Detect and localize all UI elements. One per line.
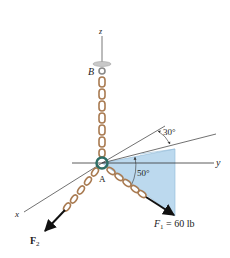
force-f2-label: F2 bbox=[30, 235, 40, 248]
support-plate bbox=[93, 62, 111, 67]
eye-bolt-b bbox=[99, 68, 105, 74]
chain-ab bbox=[99, 77, 105, 157]
x-axis bbox=[24, 163, 102, 212]
x-axis-label: x bbox=[14, 209, 19, 219]
angle-label-30: 30° bbox=[163, 127, 176, 137]
shaded-plane bbox=[102, 149, 175, 216]
angle-label-50: 50° bbox=[137, 168, 150, 178]
force-diagram: y z x 30° 50° B bbox=[0, 0, 230, 258]
force-f1-label: F1 = 60 lb bbox=[153, 218, 195, 231]
force-f2-arrow bbox=[45, 210, 65, 231]
point-b-label: B bbox=[88, 66, 94, 77]
y-axis-label: y bbox=[215, 157, 221, 168]
z-axis-label: z bbox=[98, 27, 103, 36]
chain-f2 bbox=[62, 167, 99, 212]
point-a-label: A bbox=[99, 174, 106, 184]
